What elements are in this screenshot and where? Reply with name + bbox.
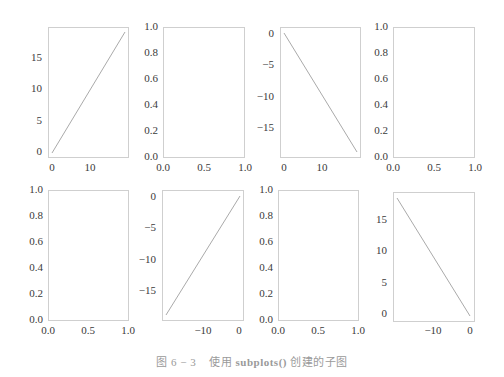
caption-code: subplots() — [236, 356, 287, 368]
ytick: 10 — [357, 245, 387, 256]
caption-prefix: 图 6 − 3 — [156, 356, 196, 368]
ytick: 5 — [357, 277, 387, 288]
figure-caption: 图 6 − 3 使用 subplots() 创建的子图 — [0, 353, 504, 369]
xtick: 0 — [455, 325, 485, 336]
ytick: 15 — [357, 214, 387, 225]
ytick: 0 — [357, 308, 387, 319]
caption-suffix: 创建的子图 — [290, 356, 348, 368]
line-series-2-4 — [0, 0, 504, 377]
xtick: −10 — [418, 325, 448, 336]
caption-mid: 使用 — [209, 356, 232, 368]
